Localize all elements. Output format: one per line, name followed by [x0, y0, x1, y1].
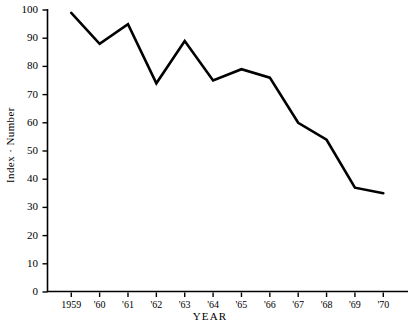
x-axis-ticks [71, 293, 383, 298]
axes [47, 9, 408, 292]
line-chart: Index · Number YEAR 01020304050607080901… [0, 0, 411, 328]
data-series-line [71, 13, 383, 193]
plot-area [0, 0, 411, 328]
